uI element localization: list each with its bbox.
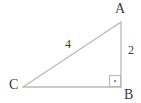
- diagram-canvas: A B C 4 2: [0, 0, 141, 103]
- vertex-label-a: A: [115, 2, 125, 16]
- vertex-label-b: B: [124, 88, 133, 102]
- right-angle-marker-icon: [110, 76, 121, 87]
- side-hypotenuse-line: [23, 22, 121, 87]
- vertex-label-c: C: [9, 78, 18, 92]
- side-length-label-vertical: 2: [128, 44, 134, 56]
- side-length-label-hypotenuse: 4: [65, 38, 71, 50]
